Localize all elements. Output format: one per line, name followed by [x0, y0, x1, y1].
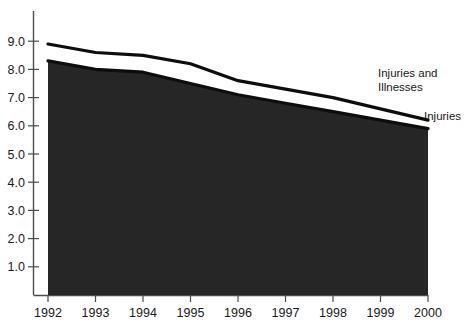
x-axis-tick-label: 1995 [177, 306, 205, 320]
y-axis-tick-label: 8.0 [8, 63, 25, 77]
y-axis-tick-labels: 9.08.07.06.05.04.03.02.01.0 [8, 35, 25, 275]
x-axis-tick-label: 1992 [34, 306, 62, 320]
y-axis-tick-label: 3.0 [8, 204, 25, 218]
y-axis-tick-label: 4.0 [8, 176, 25, 190]
incidence-rate-area-chart: 9.08.07.06.05.04.03.02.01.0 199219931994… [0, 0, 469, 327]
x-axis-tick-label: 1999 [367, 306, 395, 320]
x-axis-tick-labels: 199219931994199519961997199819992000 [34, 306, 442, 320]
y-axis-tick-label: 2.0 [8, 232, 25, 246]
x-axis-tick-label: 1998 [319, 306, 347, 320]
chart-container: 9.08.07.06.05.04.03.02.01.0 199219931994… [0, 0, 469, 327]
x-axis-tick-label: 1996 [224, 306, 252, 320]
y-axis-tick-label: 1.0 [8, 260, 25, 274]
x-axis-tick-label: 1994 [129, 306, 157, 320]
annotation-injuries-and-illnesses-line1: Injuries and [378, 67, 437, 79]
annotation-injuries-and-illnesses-line2: Illnesses [378, 81, 423, 93]
x-axis-tick-label: 2000 [414, 306, 442, 320]
x-axis-tick-label: 1997 [272, 306, 300, 320]
y-axis-tick-label: 9.0 [8, 35, 25, 49]
y-axis-tick-label: 5.0 [8, 148, 25, 162]
y-axis-tick-label: 6.0 [8, 119, 25, 133]
y-axis-tick-label: 7.0 [8, 91, 25, 105]
annotation-injuries: Injuries [424, 110, 461, 122]
x-axis-tick-label: 1993 [82, 306, 110, 320]
